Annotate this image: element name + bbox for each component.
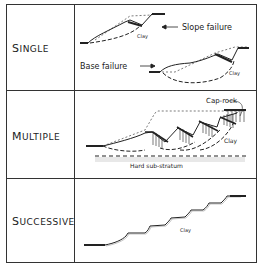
clay-label-multiple: Clay [224, 137, 238, 145]
cap-rock-label: Cap-rock [206, 97, 238, 105]
multiple-failure-diagram [86, 101, 246, 156]
clay-label-1: Clay [137, 33, 148, 40]
successive-failure-diagram [84, 196, 246, 246]
slope-failure-label: Slope failure [182, 23, 232, 32]
clay-label-successive: Clay [180, 227, 191, 234]
hard-substratum-label: Hard sub-stratum [130, 162, 183, 169]
clay-label-2: Clay [229, 70, 240, 77]
base-failure-label: Base failure [80, 62, 127, 71]
slope-failure-diagram [80, 14, 165, 43]
base-failure-diagram [149, 47, 249, 83]
arrow-slope-failure [162, 25, 178, 29]
arrow-base-failure [140, 64, 155, 68]
diagram-drawings: Clay Slope failure Base failure Clay [0, 0, 263, 267]
